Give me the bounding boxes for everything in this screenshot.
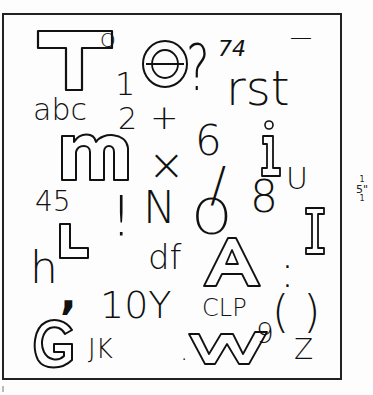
glyph-10Y: 10Y: [100, 286, 172, 324]
glyph-Z: Z: [294, 336, 313, 364]
glyph-h: h: [30, 246, 58, 290]
glyph-exclaim: !: [110, 188, 132, 244]
glyph-U: U: [286, 164, 308, 194]
outline-letter-L: [58, 222, 90, 260]
outline-letter-A: [202, 236, 262, 288]
glyph-times: ×: [148, 143, 185, 187]
glyph-plus: +: [150, 100, 179, 134]
glyph-comma: ,: [60, 272, 77, 316]
glyph-question: ?: [186, 36, 210, 100]
glyph-O: O: [192, 192, 231, 242]
glyph-parens: ( ): [272, 290, 320, 334]
glyph-rst: rst: [226, 64, 290, 112]
glyph-1: 1: [115, 68, 135, 100]
glyph-N: N: [143, 186, 176, 230]
glyph-abc: abc: [33, 95, 87, 125]
glyph-74: 74: [218, 38, 246, 60]
scale-label: 1 5" 1: [356, 176, 368, 203]
glyph-9: 9: [256, 320, 274, 348]
scale-tail: 1: [356, 195, 368, 203]
glyph-8: 8: [250, 175, 278, 219]
outline-letter-I: [304, 206, 326, 256]
glyph-JK: JK: [88, 336, 113, 362]
corner-mark: [2, 386, 4, 392]
outline-letter-m: [60, 130, 132, 182]
glyph-dash: —: [290, 26, 312, 48]
glyph-Q: Q: [100, 30, 116, 50]
outline-letter-e: [140, 38, 190, 90]
glyph-CLP: CLP: [202, 296, 247, 320]
outline-letter-G: [32, 318, 76, 370]
glyph-45: 45: [35, 188, 71, 216]
outline-letter-i: [260, 120, 284, 178]
glyph-df: df: [148, 240, 182, 274]
